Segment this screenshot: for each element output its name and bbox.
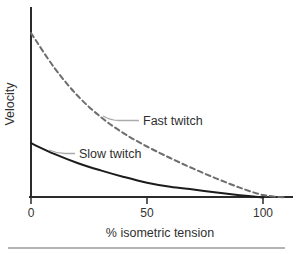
muscle-twitch-velocity-figure: 050100 Fast twitch Slow twitch Velocity …: [0, 0, 296, 254]
x-tick-label-100: 100: [253, 206, 273, 220]
x-axis-title: % isometric tension: [106, 226, 214, 240]
y-axis-title: Velocity: [3, 82, 17, 126]
x-tick-label-50: 50: [140, 206, 154, 220]
x-tick-label-0: 0: [28, 206, 35, 220]
x-axis-ticks: 050100: [28, 197, 274, 220]
chart-canvas: 050100 Fast twitch Slow twitch Velocity …: [0, 0, 296, 254]
slow-twitch-curve: [31, 143, 263, 197]
fast-twitch-label: Fast twitch: [143, 114, 203, 128]
slow-twitch-label: Slow twitch: [79, 147, 142, 161]
fast-twitch-leader-line: [103, 116, 139, 121]
